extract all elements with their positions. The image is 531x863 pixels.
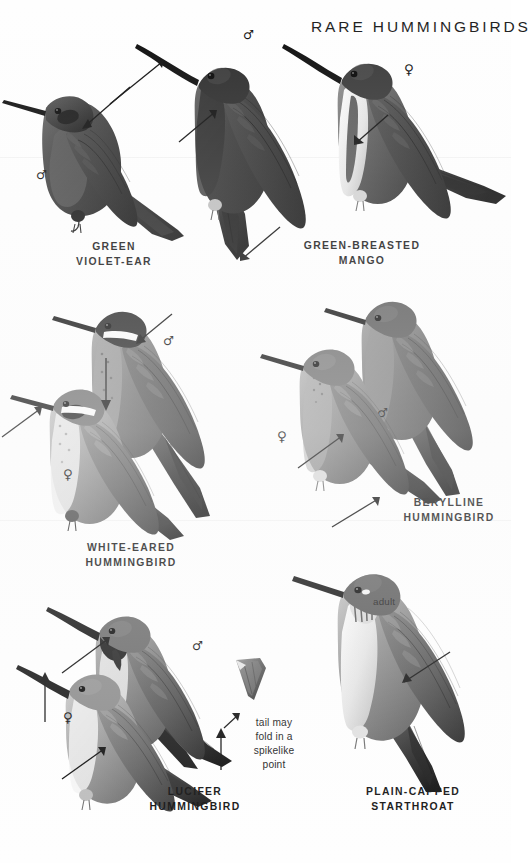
sex-symbol-male-lucifer: ♂: [192, 639, 203, 652]
species-label-white-eared-hummingbird: WHITE-EARED HUMMINGBIRD: [58, 541, 204, 570]
species-label-green-breasted-mango: GREEN-BREASTED MANGO: [287, 239, 437, 268]
sex-symbol-male-green-breasted-mango: ♂: [243, 28, 254, 41]
bird-plain-capped-starthroat-adult: [296, 560, 511, 795]
sex-symbol-female-white-eared: ♀: [63, 468, 73, 481]
species-label-lucifer-hummingbird: LUCIFER HUMMINGBIRD: [122, 785, 268, 814]
bird-white-eared-female: [6, 378, 211, 548]
species-label-plain-capped-starthroat: PLAIN-CAPPED STARTHROAT: [337, 785, 489, 814]
illustration-folded-tail-detail: [232, 656, 276, 714]
sex-symbol-female-lucifer: ♀: [63, 711, 73, 724]
sex-symbol-female-berylline: ♀: [277, 430, 287, 443]
sex-symbol-female-green-breasted-mango: ♀: [404, 63, 414, 76]
page-title: RARE HUMMINGBIRDS: [311, 18, 531, 36]
species-label-berylline-hummingbird: BERYLLINE HUMMINGBIRD: [391, 496, 507, 525]
age-label-starthroat-adult: adult: [373, 596, 395, 607]
sex-symbol-male-green-violet-ear: ♂: [36, 168, 47, 181]
sex-symbol-male-white-eared: ♂: [163, 334, 174, 347]
